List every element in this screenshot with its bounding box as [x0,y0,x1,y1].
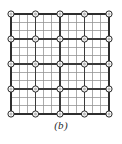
mesh-node-core [10,113,13,116]
mesh-node-core [34,13,37,16]
mesh-node-core [59,38,62,41]
mesh-svg-canvas [0,0,122,122]
mesh-node-core [34,113,37,116]
mesh-node-core [108,88,111,91]
mesh-node-core [83,63,86,66]
mesh-node-core [59,113,62,116]
mesh-node-core [10,88,13,91]
figure-container: (b) [0,0,122,144]
figure-caption: (b) [0,118,122,132]
mesh-node-core [108,113,111,116]
mesh-node-core [83,38,86,41]
mesh-node-core [59,13,62,16]
mesh-node-core [108,13,111,16]
mesh-node-core [83,13,86,16]
mesh-node-core [10,63,13,66]
mesh-diagram [0,0,122,122]
mesh-node-core [108,38,111,41]
mesh-node-core [83,88,86,91]
mesh-node-core [59,63,62,66]
mesh-node-core [34,38,37,41]
mesh-node-core [10,38,13,41]
mesh-node-core [10,13,13,16]
mesh-node-core [59,88,62,91]
mesh-node-core [83,113,86,116]
mesh-node-core [108,63,111,66]
mesh-node-core [34,63,37,66]
mesh-node-core [34,88,37,91]
